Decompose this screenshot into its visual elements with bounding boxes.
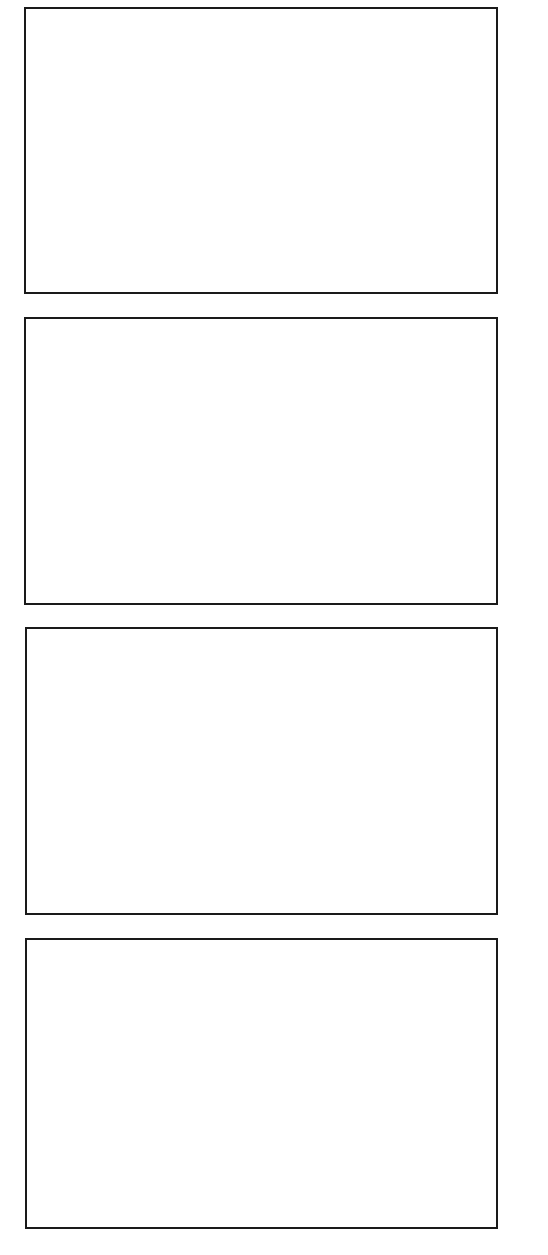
panel-4-content xyxy=(27,940,496,1227)
panel-2-content xyxy=(26,319,496,603)
panel-3-content xyxy=(27,629,496,913)
panel-2 xyxy=(24,317,498,605)
panel-1 xyxy=(24,7,498,294)
panel-3 xyxy=(25,627,498,915)
panel-1-content xyxy=(26,9,496,292)
panel-4 xyxy=(25,938,498,1229)
